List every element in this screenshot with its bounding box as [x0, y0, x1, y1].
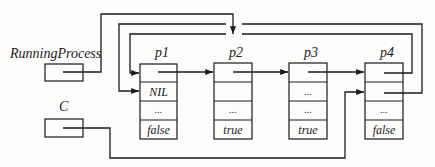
c-label: C	[59, 99, 69, 114]
record-field: false	[373, 123, 396, 137]
record-field: ...	[380, 104, 388, 115]
record-label: p2	[228, 45, 243, 60]
record-p3: p3 ... ... true	[289, 45, 327, 139]
record-field: NIL	[148, 85, 168, 99]
record-field: ...	[155, 104, 163, 115]
running-process-label: RunningProcess	[9, 46, 102, 61]
record-field: true	[223, 123, 243, 137]
record-p1: p1 NIL ... false	[140, 45, 177, 139]
record-field: false	[147, 123, 170, 137]
record-field: true	[298, 123, 318, 137]
record-field: ...	[304, 86, 312, 97]
record-label: p4	[379, 45, 394, 60]
record-label: p1	[154, 45, 169, 60]
record-field: ...	[229, 104, 237, 115]
record-label: p3	[303, 45, 318, 60]
edge-p4-to-p1-top	[130, 34, 226, 73]
edge-running-to-p2	[63, 14, 233, 72]
process-list-diagram: RunningProcess C p1 NIL ... false p2 ...…	[0, 0, 435, 167]
record-p2: p2 ... true	[214, 45, 252, 139]
record-field: ...	[304, 104, 312, 115]
record-p4: p4 ... false	[365, 45, 403, 139]
